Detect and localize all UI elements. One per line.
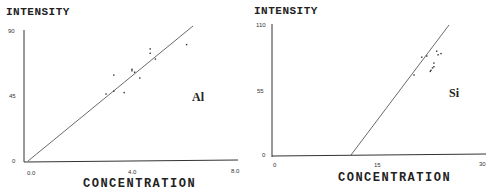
x-tick: 0.0 [27, 170, 35, 176]
data-points [105, 44, 187, 95]
data-point [421, 57, 422, 58]
x-axis-title: CONCENTRATION [83, 177, 196, 191]
x-tick: 30 [479, 161, 486, 167]
x-tick: 4.0 [128, 169, 136, 175]
data-point [131, 70, 132, 71]
y-tick: 90 [8, 28, 15, 34]
x-tick: 15 [374, 162, 381, 168]
chart-panel-al: INTENSITY 90 45 0 0.0 4.0 8.0 CONCENTRAT… [0, 0, 246, 192]
element-label: Si [449, 86, 459, 101]
data-points [413, 51, 441, 76]
data-point [113, 90, 114, 91]
data-point [150, 53, 151, 54]
data-point [186, 44, 187, 45]
x-axis-title: CONCENTRATION [338, 171, 451, 185]
chart-panel-si: INTENSITY 110 55 0 0 15 30 CONCENTRATION… [246, 0, 492, 192]
y-tick: 0 [262, 152, 265, 158]
data-point [155, 58, 156, 59]
data-point [433, 66, 434, 67]
y-tick: 55 [257, 88, 264, 94]
x-axis [272, 154, 486, 156]
y-tick: 110 [256, 22, 266, 28]
x-tick: 0 [273, 162, 276, 168]
element-label: Al [192, 90, 204, 105]
data-point [440, 53, 441, 54]
fit-line [28, 26, 193, 161]
y-tick: 45 [9, 93, 16, 99]
data-point [150, 48, 151, 49]
data-point [131, 69, 132, 70]
data-point [437, 54, 438, 55]
data-point [105, 93, 106, 94]
data-point [433, 62, 434, 63]
data-point [124, 92, 125, 93]
x-tick: 8.0 [231, 168, 239, 174]
x-axis [24, 160, 238, 162]
data-point [436, 51, 437, 52]
data-point [134, 72, 135, 73]
data-point [430, 71, 431, 72]
fit-line [351, 25, 449, 155]
plot-area [0, 0, 246, 192]
data-point [426, 55, 427, 56]
data-point [413, 74, 414, 75]
data-point [113, 74, 114, 75]
data-point [432, 67, 433, 68]
data-point [139, 77, 140, 78]
y-tick: 0 [12, 158, 15, 164]
